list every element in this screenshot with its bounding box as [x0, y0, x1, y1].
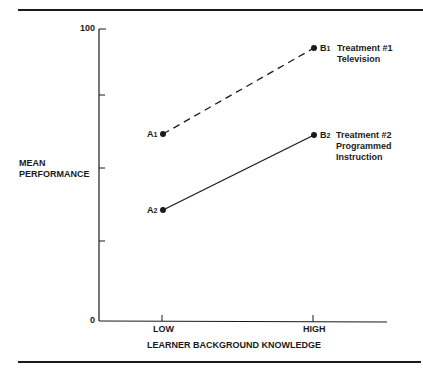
point-a1 — [160, 131, 166, 137]
legend-treatment2-line2: Programmed — [336, 141, 392, 152]
point-label-a1: A1 — [147, 129, 157, 140]
x-axis-title: LEARNER BACKGROUND KNOWLEDGE — [147, 340, 321, 351]
point-b2 — [311, 132, 317, 138]
legend-treatment2-line3: Instruction — [336, 152, 383, 163]
point-label-a1-sub: 1 — [154, 131, 158, 138]
point-label-b1-sub: 1 — [327, 45, 331, 52]
point-label-b2: B2 — [320, 130, 330, 141]
x-axis — [99, 321, 387, 322]
y-axis-title-line1: MEAN — [19, 158, 46, 169]
point-a2 — [160, 207, 166, 213]
point-label-a2: A2 — [147, 205, 157, 216]
legend-treatment1-line1: Treatment #1 — [337, 43, 393, 54]
x-tick-label-low: LOW — [153, 324, 174, 335]
point-label-b2-sub: 2 — [327, 132, 331, 139]
legend-treatment1-line2: Television — [337, 54, 380, 65]
y-tick-label-0: 0 — [90, 315, 95, 326]
series-programmed-line — [163, 135, 314, 210]
y-tick-label-100: 100 — [80, 23, 95, 34]
legend-treatment2-line1: Treatment #2 — [336, 130, 392, 141]
y-axis-title-line2: PERFORMANCE — [19, 169, 90, 180]
point-label-a2-sub: 2 — [154, 207, 158, 214]
point-b1 — [311, 45, 317, 51]
x-tick-label-high: HIGH — [303, 324, 326, 335]
point-label-b1: B1 — [320, 43, 330, 54]
series-television-line — [163, 48, 314, 134]
